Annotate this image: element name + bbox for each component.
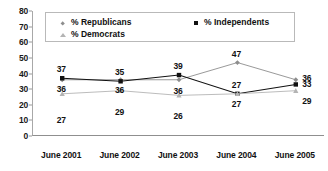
legend-item-democrats: % Democrats <box>58 29 125 39</box>
diamond-marker-icon <box>177 77 182 82</box>
y-axis-tick-label: 30 <box>19 84 28 94</box>
square-marker-icon <box>177 73 181 77</box>
y-axis-tick-label: 10 <box>19 115 28 125</box>
x-axis-tick-label: June 2001 <box>41 150 81 160</box>
y-axis-tick-mark <box>29 104 32 105</box>
square-marker-icon <box>118 79 122 83</box>
legend-label-independents: % Independents <box>204 17 269 27</box>
y-axis-tick-mark <box>29 42 32 43</box>
y-axis-tick-mark <box>29 26 32 27</box>
y-axis-tick-mark <box>29 11 32 12</box>
data-point-label: 36 <box>57 84 66 94</box>
y-axis-tick-mark <box>29 73 32 74</box>
triangle-marker-icon <box>58 29 67 39</box>
y-axis-tick-label: 70 <box>19 22 28 32</box>
y-axis-tick-mark <box>29 89 32 90</box>
legend-label-republicans: % Republicans <box>71 17 131 27</box>
data-point-label: 35 <box>115 67 124 77</box>
x-axis-tick-label: June 2005 <box>275 150 315 160</box>
line-chart: 80706050403020100 3736273536293936264727… <box>0 0 328 171</box>
data-point-label: 36 <box>173 86 182 96</box>
y-axis-tick-mark <box>29 136 32 137</box>
legend-item-independents: % Independents <box>191 17 269 27</box>
legend-item-republicans: % Republicans <box>58 17 131 27</box>
data-point-label: 26 <box>173 111 182 121</box>
x-axis: June 2001June 2002June 2003June 2004June… <box>32 150 324 164</box>
data-point-label: 47 <box>232 49 241 59</box>
square-marker-icon <box>191 17 200 27</box>
data-point-label: 27 <box>57 115 66 125</box>
diamond-marker-icon <box>58 17 67 27</box>
data-point-label: 29 <box>302 96 311 106</box>
diamond-marker-icon <box>235 60 240 65</box>
x-axis-tick-label: June 2002 <box>99 150 139 160</box>
x-axis-tick-label: June 2004 <box>216 150 256 160</box>
y-axis-tick-mark <box>29 120 32 121</box>
data-point-label: 33 <box>302 79 311 89</box>
legend-label-democrats: % Democrats <box>71 29 125 39</box>
data-point-label: 39 <box>173 61 182 71</box>
y-axis-tick-label: 40 <box>19 69 28 79</box>
diamond-marker-icon <box>293 77 298 82</box>
y-axis-tick-label: 50 <box>19 53 28 63</box>
y-axis-tick-label: 80 <box>19 6 28 16</box>
data-point-label: 27 <box>232 80 241 90</box>
x-axis-tick-label: June 2003 <box>158 150 198 160</box>
square-marker-icon <box>60 76 64 80</box>
y-axis-tick-label: 0 <box>23 131 28 141</box>
data-point-label: 37 <box>57 64 66 74</box>
y-axis-tick-label: 20 <box>19 100 28 110</box>
y-axis: 80706050403020100 <box>6 0 28 171</box>
square-marker-icon <box>294 82 298 86</box>
y-axis-tick-label: 60 <box>19 37 28 47</box>
data-point-label: 36 <box>115 85 124 95</box>
data-point-label: 27 <box>232 99 241 109</box>
data-point-label: 29 <box>115 107 124 117</box>
chart-legend: % Republicans % Democrats % Independents <box>45 12 295 42</box>
y-axis-tick-mark <box>29 57 32 58</box>
